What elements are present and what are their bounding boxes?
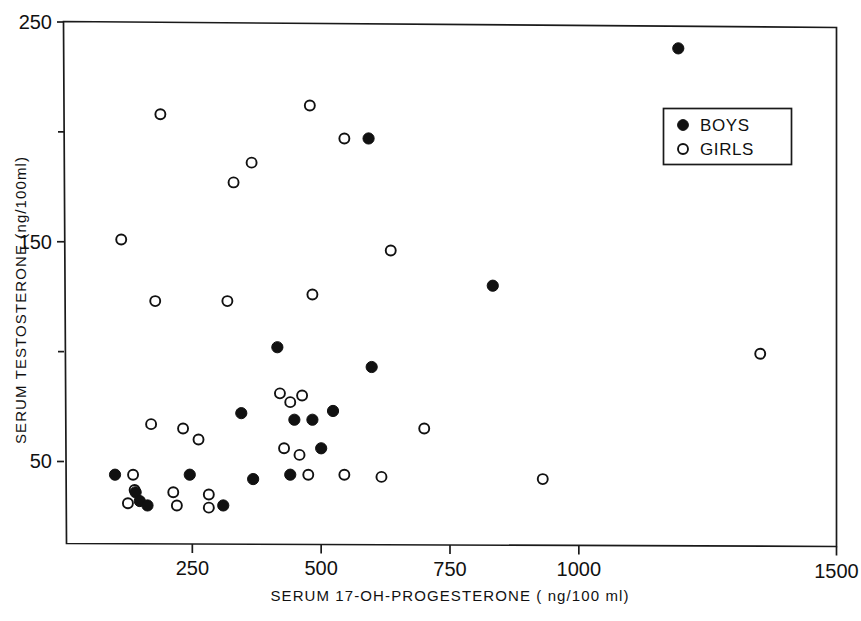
data-point-boys xyxy=(142,500,153,511)
data-point-girls xyxy=(307,289,317,299)
y-axis-title-text: SERUM TESTOSTERONE (ng/100ml) xyxy=(12,156,29,444)
data-point-girls xyxy=(339,470,349,480)
data-point-girls xyxy=(295,450,305,460)
data-point-boys xyxy=(248,473,259,484)
x-tick-label: 1000 xyxy=(557,558,602,580)
data-point-girls xyxy=(419,424,429,434)
data-point-girls xyxy=(155,109,165,119)
data-point-boys xyxy=(487,280,498,291)
x-tick-label: 750 xyxy=(433,558,466,580)
data-point-girls xyxy=(222,296,232,306)
data-point-boys xyxy=(289,414,300,425)
scatter-plot-figure: 50150250 25050075010001500 SERUM TESTOST… xyxy=(0,0,861,621)
y-tick-label: 250 xyxy=(19,11,52,33)
data-point-girls xyxy=(755,349,765,359)
data-point-girls xyxy=(297,391,307,401)
data-point-girls xyxy=(168,487,178,497)
data-point-boys xyxy=(327,405,338,416)
data-point-girls xyxy=(150,296,160,306)
data-point-girls xyxy=(178,424,188,434)
data-point-boys xyxy=(184,469,195,480)
data-point-girls xyxy=(303,470,313,480)
data-point-girls xyxy=(305,101,315,111)
data-point-girls xyxy=(339,133,349,143)
data-point-boys xyxy=(272,342,283,353)
data-point-girls xyxy=(275,388,285,398)
x-tick-label: 1500 xyxy=(814,560,859,582)
x-axis-title: SERUM 17-OH-PROGESTERONE ( ng/100 ml) xyxy=(270,587,629,604)
data-point-girls xyxy=(116,235,126,245)
legend: BOYS GIRLS xyxy=(664,109,792,165)
data-point-girls xyxy=(386,246,396,256)
data-point-girls xyxy=(538,474,548,484)
data-point-girls xyxy=(146,419,156,429)
data-point-girls xyxy=(172,500,182,510)
data-point-girls xyxy=(204,489,214,499)
data-point-boys xyxy=(316,443,327,454)
legend-label-boys: BOYS xyxy=(700,116,750,135)
data-point-boys xyxy=(366,361,377,372)
plot-frame xyxy=(64,22,837,547)
y-tick-label: 50 xyxy=(30,450,52,472)
data-point-boys xyxy=(307,414,318,425)
x-tick-label: 250 xyxy=(176,557,209,579)
y-axis-title: SERUM TESTOSTERONE (ng/100ml) xyxy=(12,156,29,444)
legend-marker-girls-icon xyxy=(678,144,688,154)
data-point-boys xyxy=(363,133,374,144)
data-point-girls xyxy=(285,397,295,407)
data-point-boys xyxy=(285,469,296,480)
data-point-girls xyxy=(279,443,289,453)
x-tick-label: 500 xyxy=(304,557,337,579)
data-point-girls xyxy=(229,177,239,187)
y-axis-ticks xyxy=(57,22,64,461)
data-point-boys xyxy=(236,408,247,419)
data-point-boys xyxy=(109,469,120,480)
plot-canvas: 50150250 25050075010001500 SERUM TESTOST… xyxy=(0,0,861,621)
data-point-boys xyxy=(218,500,229,511)
data-point-girls xyxy=(194,435,204,445)
data-point-girls xyxy=(376,472,386,482)
x-axis-tick-labels: 25050075010001500 xyxy=(176,557,859,582)
x-axis-title-text: SERUM 17-OH-PROGESTERONE ( ng/100 ml) xyxy=(270,587,629,604)
data-point-boys xyxy=(673,43,684,54)
data-point-girls xyxy=(123,498,133,508)
legend-marker-boys-icon xyxy=(678,120,689,131)
data-point-girls xyxy=(204,503,214,513)
data-point-girls xyxy=(128,470,138,480)
data-point-girls xyxy=(247,158,257,168)
legend-label-girls: GIRLS xyxy=(700,140,754,159)
